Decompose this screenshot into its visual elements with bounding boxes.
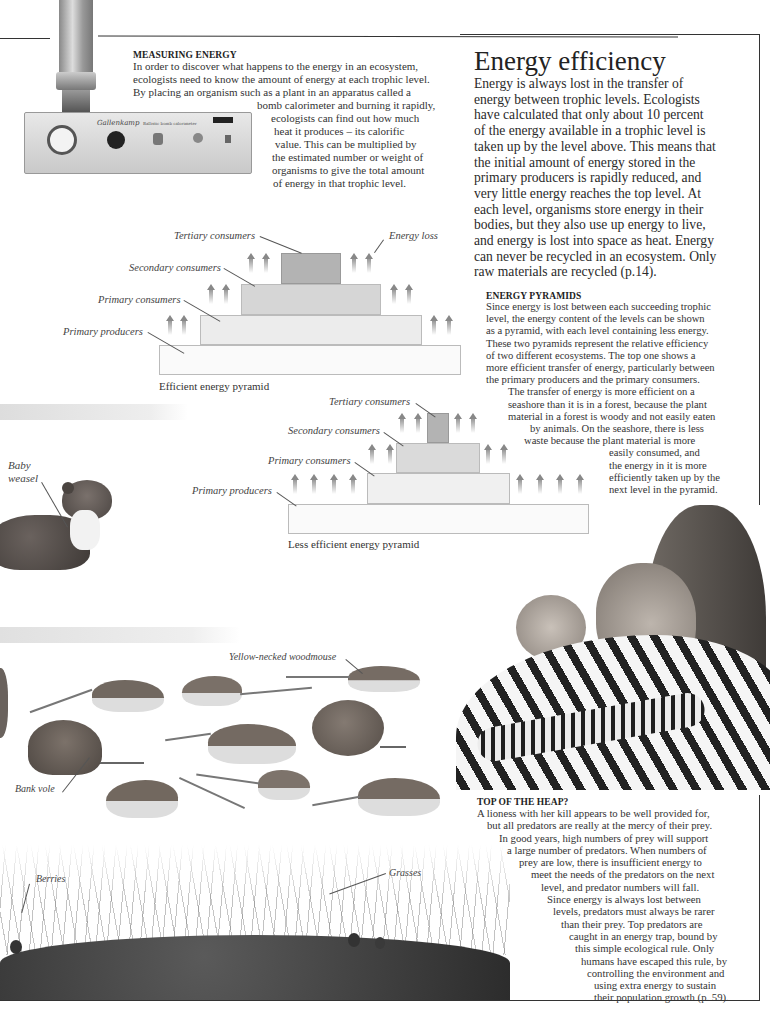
- baby-weasel-photo: [0, 480, 115, 590]
- woodmouse: [182, 676, 242, 706]
- level-tertiary-consumers: [427, 413, 449, 443]
- leader-line: [354, 462, 374, 477]
- soil-mound: [0, 935, 510, 1000]
- top-of-heap-section: TOP OF THE HEAP? A lioness with her kill…: [477, 797, 757, 1004]
- energy-loss-arrow: [349, 474, 357, 494]
- energy-loss-arrow: [556, 474, 564, 494]
- right-rule-lower: [759, 795, 760, 1000]
- label-baby-weasel-line1: Baby: [8, 459, 31, 471]
- vole-tail: [100, 762, 144, 764]
- energy-loss-arrow: [576, 474, 584, 494]
- label-producers: Primary producers: [192, 485, 272, 496]
- energy-loss-arrow: [398, 413, 406, 433]
- label-baby-weasel-line2: weasel: [8, 472, 38, 484]
- woodmouse: [92, 680, 164, 712]
- mouse-tail: [179, 777, 245, 809]
- label-yellow-necked-woodmouse: Yellow-necked woodmouse: [229, 651, 336, 662]
- label-tertiary: Tertiary consumers: [329, 396, 410, 407]
- mouse-tail: [286, 676, 350, 678]
- label-primary-consumers: Primary consumers: [268, 455, 351, 466]
- label-grasses: Grasses: [389, 867, 421, 878]
- berry: [10, 940, 22, 954]
- energy-loss-arrow: [291, 474, 299, 494]
- energy-loss-arrow: [368, 444, 376, 464]
- energy-loss-arrow: [330, 474, 338, 494]
- energy-loss-arrow: [536, 474, 544, 494]
- vole-tail: [380, 746, 406, 748]
- woodmouse: [208, 724, 296, 764]
- rodents-photo: [0, 640, 450, 830]
- energy-loss-arrow: [516, 474, 524, 494]
- energy-loss-arrow: [484, 444, 492, 464]
- label-bank-vole: Bank vole: [15, 783, 55, 794]
- less-efficient-pyramid-caption: Less efficient energy pyramid: [288, 538, 419, 550]
- lioness-zebra-photo: [456, 505, 770, 790]
- level-secondary-consumers: [396, 443, 480, 473]
- berry: [375, 937, 385, 949]
- woodmouse: [258, 770, 310, 800]
- mouse-tail: [165, 733, 211, 741]
- weasel-chest: [70, 510, 100, 550]
- mouse-tail: [30, 689, 93, 713]
- energy-loss-arrow: [386, 444, 394, 464]
- top-of-heap-body: A lioness with her kill appears to be we…: [477, 807, 757, 1004]
- top-of-heap-heading: TOP OF THE HEAP?: [477, 797, 757, 807]
- weasel-ear: [62, 482, 74, 494]
- energy-loss-arrow: [454, 413, 462, 433]
- energy-loss-arrow: [310, 474, 318, 494]
- woodmouse: [358, 778, 440, 816]
- berry: [348, 933, 360, 947]
- bank-vole: [312, 700, 384, 756]
- woodmouse: [106, 780, 178, 818]
- label-berries: Berries: [36, 873, 65, 884]
- bank-vole: [28, 720, 102, 775]
- leader-line: [276, 492, 296, 507]
- energy-loss-arrow: [469, 413, 477, 433]
- mouse-tail: [240, 687, 312, 695]
- label-secondary: Secondary consumers: [288, 425, 380, 436]
- mouse-tail: [312, 796, 360, 806]
- level-primary-consumers: [367, 473, 510, 504]
- energy-loss-arrow: [414, 413, 422, 433]
- mouse-tail: [196, 774, 260, 785]
- less-efficient-pyramid-diagram: Tertiary consumers Secondary consumers P…: [0, 0, 600, 560]
- grassland-photo: [0, 845, 510, 1000]
- rodent-partial: [0, 668, 8, 738]
- energy-loss-arrow: [500, 444, 508, 464]
